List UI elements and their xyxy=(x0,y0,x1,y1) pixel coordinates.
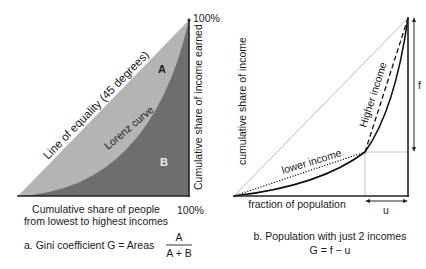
fraction-denominator: A + B xyxy=(166,247,191,259)
top-percent: 100% xyxy=(193,12,220,24)
u-arrow-head-right xyxy=(403,199,408,203)
gini-diagram: Line of equality (45 degrees) Lorenz cur… xyxy=(0,0,426,269)
panel-a: Line of equality (45 degrees) Lorenz cur… xyxy=(17,12,220,259)
panel-b: f u cumulative share of income Higher in… xyxy=(233,17,421,256)
x-axis-label-line1: Cumulative share of people xyxy=(32,203,160,215)
caption-a: a. Gini coefficient G = Areas xyxy=(24,239,154,251)
area-a-label: A xyxy=(158,63,166,75)
f-arrow-head-bottom xyxy=(412,147,416,152)
area-b-label: B xyxy=(160,156,168,168)
y-axis-label: Cumulative share of income earned xyxy=(192,24,204,190)
y-axis-label-b: cumulative share of income xyxy=(236,37,248,165)
u-arrow-head-left xyxy=(365,199,370,203)
equality-line xyxy=(234,18,408,196)
u-label: u xyxy=(383,204,389,216)
f-arrow-head-top xyxy=(412,17,416,22)
top-point xyxy=(187,18,190,21)
f-label: f xyxy=(418,79,421,91)
x-axis-label-b: fraction of population xyxy=(248,198,346,210)
caption-b-line2: G = f − u xyxy=(310,244,351,256)
fraction-numerator: A xyxy=(175,231,182,243)
right-percent: 100% xyxy=(177,204,204,216)
x-axis-label-line2: from lowest to highest incomes xyxy=(24,215,168,227)
caption-b-line1: b. Population with just 2 incomes xyxy=(254,230,407,242)
